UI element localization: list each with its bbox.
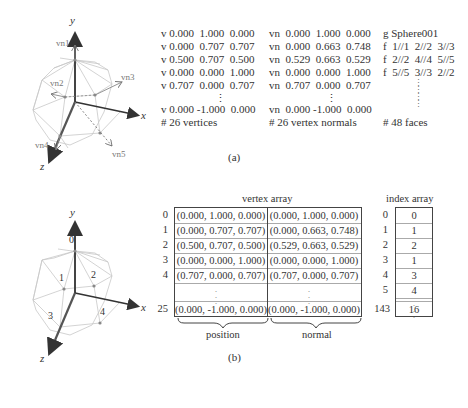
normal-label-2: vn2 — [50, 78, 64, 88]
vertex-array-title: vertex array — [242, 193, 292, 204]
x-axis-label-a: x — [141, 109, 146, 121]
position-cell: (0.707, 0.000, 0.707) — [175, 268, 267, 283]
position-column-label: position — [206, 329, 240, 340]
normal-label-4: vn4 — [35, 140, 49, 150]
index-cell: 2 — [396, 238, 432, 254]
face-line: f 2//2 4//4 5//5 — [383, 53, 455, 66]
vertex-array-table: (0.000, 1.000, 0.000) (0.000, 1.000, 0.0… — [174, 207, 362, 317]
normal-count-comment: # 26 vertex normals — [269, 116, 357, 129]
vertex-row-index: 25 — [154, 301, 168, 316]
index-cell: 1 — [396, 223, 432, 239]
vertex-row-index: 2 — [154, 237, 168, 252]
z-axis-label-b: z — [40, 352, 44, 364]
index-cell-last: 16 — [396, 301, 432, 317]
vertex-id-label: 0 — [69, 234, 74, 245]
vertex-line: v 0.000 1.000 0.000 — [161, 27, 255, 40]
vertex-line: v 0.000 0.000 1.000 — [161, 66, 255, 79]
vertex-line-last: v 0.000 -1.000 0.000 — [161, 103, 255, 116]
y-axis-label-a: y — [70, 14, 75, 26]
index-array-table: 0 1 2 1 3 4 ··· 16 — [395, 207, 433, 317]
z-axis-label-a: z — [40, 160, 44, 172]
face-count-comment: # 48 faces — [383, 116, 428, 129]
face-ellipsis: ⋮⋮⋮⋮ — [414, 80, 423, 108]
normal-cell: (0.707, 0.000, 0.707) — [268, 268, 360, 283]
position-cell: (0.000, 1.000, 0.000) — [175, 208, 267, 223]
position-cell: (0.000, -1.000, 0.000) — [175, 302, 267, 317]
vertex-array-row-last: (0.000, -1.000, 0.000) (0.000, -1.000, 0… — [175, 301, 361, 317]
normal-label-5: vn5 — [112, 149, 126, 159]
vertex-line: v 0.000 0.707 0.707 — [161, 40, 255, 53]
position-brace — [178, 318, 268, 328]
normal-line: vn 0.707 0.000 0.707 — [269, 79, 371, 92]
face-line: f 1//1 2//2 3//3 — [383, 40, 455, 53]
index-cell: 4 — [396, 283, 432, 299]
normal-line: vn 0.000 0.000 1.000 — [269, 66, 371, 79]
vertex-row-index: 3 — [154, 252, 168, 267]
x-axis-label-b: x — [141, 301, 146, 313]
normal-label-3: vn3 — [121, 72, 135, 82]
vertex-id-label: 4 — [100, 306, 105, 317]
index-cell: 0 — [396, 208, 432, 224]
vertex-line: v 0.707 0.000 0.707 — [161, 79, 255, 92]
vertex-array-row: (0.707, 0.000, 0.707) (0.707, 0.000, 0.7… — [175, 268, 361, 284]
sphere-wireframe-b — [33, 249, 120, 335]
index-row-index: 4 — [374, 267, 388, 282]
caption-b: (b) — [228, 351, 241, 363]
normal-line: vn 0.529 0.663 0.529 — [269, 53, 371, 66]
index-row-index: 0 — [374, 207, 388, 222]
position-cell: (0.500, 0.707, 0.500) — [175, 238, 267, 253]
normal-brace — [271, 318, 361, 328]
index-row-index: 3 — [374, 252, 388, 267]
normal-cell: (0.529, 0.663, 0.529) — [268, 238, 360, 253]
column-divider — [267, 208, 268, 316]
index-row-index: 143 — [370, 301, 390, 316]
vertex-array-row: (0.000, 0.707, 0.707) (0.000, 0.663, 0.7… — [175, 223, 361, 239]
vertex-array-row: (0.000, 1.000, 0.000) (0.000, 1.000, 0.0… — [175, 208, 361, 224]
normal-line: vn 0.000 0.663 0.748 — [269, 40, 371, 53]
normal-column-label: normal — [302, 329, 332, 340]
index-cell: 1 — [396, 253, 432, 269]
z-axis-a — [50, 102, 75, 160]
vertex-row-index: 0 — [154, 207, 168, 222]
vertex-row-index: 4 — [154, 267, 168, 282]
group-name: g Sphere001 — [383, 27, 438, 40]
vertex-count-comment: # 26 vertices — [161, 116, 217, 129]
vertex-row-index: 1 — [154, 222, 168, 237]
index-row-index: 1 — [374, 222, 388, 237]
index-row-index: 2 — [374, 237, 388, 252]
y-axis-label-b: y — [70, 206, 75, 218]
normal-line-last: vn 0.000 -1.000 0.000 — [269, 103, 372, 116]
position-cell: (0.000, 0.707, 0.707) — [175, 223, 267, 238]
position-cell: (0.000, 0.000, 1.000) — [175, 253, 267, 268]
vertex-array-row: (0.000, 0.000, 1.000) (0.000, 0.000, 1.0… — [175, 253, 361, 269]
vertex-id-label: 2 — [91, 269, 96, 280]
normal-cell: (0.000, 0.663, 0.748) — [268, 223, 360, 238]
vertex-array-row: (0.500, 0.707, 0.500) (0.529, 0.663, 0.5… — [175, 238, 361, 254]
caption-a: (a) — [228, 151, 240, 163]
vertex-id-label: 1 — [59, 272, 64, 283]
index-array-title: index array — [386, 193, 434, 204]
normal-label-1: vn1 — [56, 38, 70, 48]
normal-cell: (0.000, 1.000, 0.000) — [268, 208, 360, 223]
normal-line: vn 0.000 1.000 0.000 — [269, 27, 371, 40]
vertex-id-label: 3 — [48, 310, 53, 321]
index-cell: 3 — [396, 268, 432, 284]
vertex-line: v 0.500 0.707 0.500 — [161, 53, 255, 66]
normal-cell: (0.000, -1.000, 0.000) — [268, 302, 360, 317]
normal-cell: (0.000, 0.000, 1.000) — [268, 253, 360, 268]
index-row-index: 5 — [374, 282, 388, 297]
